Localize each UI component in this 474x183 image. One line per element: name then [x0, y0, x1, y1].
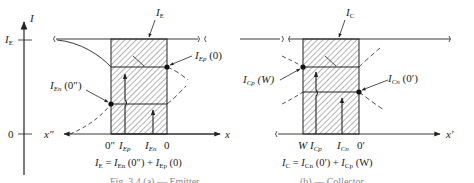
equation-collector: IC = ICn (0′) + ICp (W) — [282, 157, 373, 170]
x-tick-0pp: 0″ — [105, 140, 115, 151]
region-label-ien: IEn — [145, 140, 156, 153]
x-tick-0p: 0′ — [357, 140, 365, 151]
label-iep-0: IEp (0) — [195, 50, 222, 63]
label-ie-top: IE — [156, 7, 164, 20]
emitter-depletion-region — [111, 39, 167, 134]
region-label-iep: IEp — [119, 140, 130, 153]
label-ic-top: IC — [346, 7, 354, 20]
region-label-icp: ICp — [310, 140, 322, 153]
equation-emitter: IE = IEn (0″) + IEp (0) — [95, 157, 182, 170]
label-icn-0p: ICn (0′) — [388, 73, 418, 86]
x-tick-w: W — [298, 140, 307, 151]
y-axis-label: I — [30, 13, 34, 24]
region-label-icn: ICn — [337, 140, 349, 153]
x-tick-0: 0 — [164, 140, 170, 151]
x-axis-right-label: x — [225, 129, 230, 140]
x-axis-left-label: x″ — [44, 129, 53, 140]
y-tick-zero: 0 — [8, 129, 14, 140]
caption-left: Fig. 3.4 (a) — Emitter — [110, 176, 199, 183]
label-icp-w: ICp (W) — [243, 74, 274, 87]
label-ien-0pp: IEn (0″) — [50, 80, 82, 93]
collector-depletion-region — [303, 39, 359, 134]
y-tick-ie: IE — [5, 34, 13, 47]
caption-right: (b) — Collector — [300, 176, 364, 183]
x-axis-label-right: x′ — [446, 129, 453, 140]
